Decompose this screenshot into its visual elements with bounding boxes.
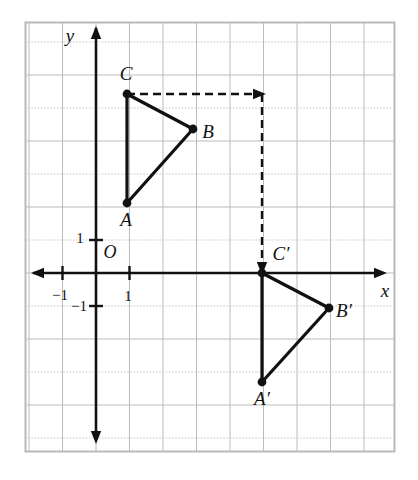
vertex-dot-A <box>123 199 132 208</box>
vertex-label-B: B <box>202 121 214 142</box>
origin-label: O <box>104 242 117 262</box>
y-axis-label: y <box>64 25 75 46</box>
x-axis-label: x <box>380 280 390 301</box>
vertex-label-Ap: A′ <box>252 388 271 409</box>
figure-canvas: y x O 1 −1 1 −1 ABCA′B′C′ <box>0 0 418 480</box>
vertex-dot-B <box>189 125 198 134</box>
vertex-label-Bp: B′ <box>336 300 353 321</box>
vertex-label-Cp: C′ <box>273 243 291 264</box>
vertex-label-A: A <box>118 209 132 230</box>
vertex-dot-C <box>123 90 132 99</box>
vertex-dot-Cp <box>258 269 267 278</box>
vertex-dot-Ap <box>258 378 267 387</box>
coordinate-plane-figure: y x O 1 −1 1 −1 ABCA′B′C′ <box>0 0 418 480</box>
x-axis-tick-label-minus-1: −1 <box>52 287 68 303</box>
x-axis-tick-label-1: 1 <box>124 288 132 304</box>
y-axis-tick-label-1: 1 <box>76 230 84 246</box>
y-axis-tick-label-minus-1: −1 <box>71 298 87 314</box>
vertex-dot-Bp <box>325 304 334 313</box>
vertex-label-C: C <box>120 63 133 84</box>
